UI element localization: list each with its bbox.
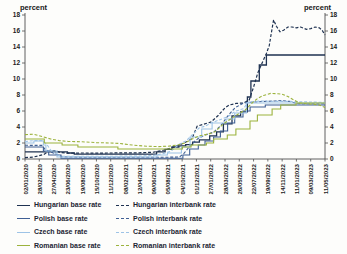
- interest-rates-chart-figure: percent percent 002244668810101212141416…: [0, 0, 347, 254]
- x-tick-label: 12/04/2021: [136, 163, 143, 194]
- x-tick-label: 09/03/2023: [307, 163, 314, 194]
- rates-line-chart: 00224466881010121214141616181802/01/2020…: [0, 0, 347, 200]
- x-tick-label: 27/01/2022: [207, 163, 214, 194]
- y-tick-label-left: 12: [13, 59, 21, 66]
- y-tick-label-right: 14: [330, 43, 338, 50]
- legend-swatch-romanian-base-rate: [17, 245, 30, 246]
- x-tick-label: 28/03/2022: [222, 163, 229, 194]
- legend-item-romanian-base-rate: Romanian base rate: [17, 242, 114, 250]
- y-tick-label-right: 4: [330, 123, 334, 130]
- x-tick-label: 01/12/2021: [193, 163, 200, 194]
- y-tick-label-right: 18: [330, 11, 338, 18]
- y-tick-label-right: 6: [330, 107, 334, 114]
- y-tick-label-left: 0: [16, 155, 20, 162]
- x-tick-label: 11/01/2023: [293, 163, 300, 194]
- x-tick-label: 04/10/2021: [179, 163, 186, 194]
- series-romanian-base-rate: [25, 103, 325, 149]
- chart-legend: Hungarian base rate Hungarian interbank …: [17, 201, 216, 250]
- legend-label-polish-interbank-rate: Polish interbank rate: [133, 215, 202, 223]
- legend-swatch-romanian-interbank-rate: [116, 245, 129, 246]
- legend-swatch-hungarian-base-rate: [17, 205, 30, 206]
- x-tick-label: 02/01/2020: [22, 163, 29, 194]
- x-tick-label: 05/08/2021: [164, 163, 171, 194]
- y-tick-label-right: 8: [330, 91, 334, 98]
- legend-swatch-czech-base-rate: [17, 232, 30, 233]
- y-tick-label-left: 14: [13, 43, 21, 50]
- legend-item-czech-base-rate: Czech base rate: [17, 228, 114, 236]
- series-hungarian-interbank-rate: [25, 20, 325, 158]
- legend-label-czech-base-rate: Czech base rate: [34, 228, 87, 236]
- y-tick-label-right: 16: [330, 27, 338, 34]
- axes: [25, 13, 325, 159]
- legend-item-czech-interbank-rate: Czech interbank rate: [116, 228, 216, 236]
- series-romanian-interbank-rate: [25, 93, 325, 146]
- x-tick-label: 15/10/2020: [93, 163, 100, 194]
- y-tick-label-left: 8: [16, 91, 20, 98]
- x-tick-label: 14/11/2022: [279, 163, 286, 194]
- legend-label-romanian-interbank-rate: Romanian interbank rate: [133, 242, 215, 250]
- legend-swatch-polish-base-rate: [17, 218, 30, 219]
- legend-label-czech-interbank-rate: Czech interbank rate: [133, 228, 202, 236]
- x-tick-label: 09/06/2021: [150, 163, 157, 194]
- left-axis-title: percent: [20, 3, 47, 12]
- x-tick-label: 08/02/2021: [122, 163, 129, 194]
- x-tick-label: 19/08/2020: [79, 163, 86, 194]
- legend-label-polish-base-rate: Polish base rate: [34, 215, 88, 223]
- legend-label-hungarian-base-rate: Hungarian base rate: [34, 201, 101, 209]
- legend-item-polish-interbank-rate: Polish interbank rate: [116, 215, 216, 223]
- legend-swatch-czech-interbank-rate: [116, 232, 129, 233]
- y-tick-label-left: 16: [13, 27, 21, 34]
- y-tick-label-right: 10: [330, 75, 338, 82]
- series-polish-base-rate: [25, 105, 325, 158]
- legend-swatch-polish-interbank-rate: [116, 218, 129, 219]
- legend-swatch-hungarian-interbank-rate: [116, 205, 129, 206]
- y-tick-label-left: 10: [13, 75, 21, 82]
- y-tick-label-right: 12: [330, 59, 338, 66]
- y-tick-label-left: 6: [16, 107, 20, 114]
- x-tick-label: 11/05/2023: [322, 163, 329, 194]
- y-tick-label-right: 2: [330, 139, 334, 146]
- legend-item-hungarian-base-rate: Hungarian base rate: [17, 201, 114, 209]
- x-tick-label: 28/02/2020: [36, 163, 43, 194]
- x-tick-label: 27/04/2020: [50, 163, 57, 194]
- x-tick-label: 26/05/2022: [236, 163, 243, 194]
- legend-item-polish-base-rate: Polish base rate: [17, 215, 114, 223]
- x-tick-label: 19/09/2022: [264, 163, 271, 194]
- y-tick-label-right: 0: [330, 155, 334, 162]
- y-tick-label-left: 2: [16, 139, 20, 146]
- x-tick-label: 22/07/2022: [250, 163, 257, 194]
- x-tick-label: 23/06/2020: [64, 163, 71, 194]
- legend-item-hungarian-interbank-rate: Hungarian interbank rate: [116, 201, 216, 209]
- y-tick-label-left: 18: [13, 11, 21, 18]
- legend-label-romanian-base-rate: Romanian base rate: [34, 242, 101, 250]
- y-tick-label-left: 4: [16, 123, 20, 130]
- x-tick-label: 11/12/2020: [107, 163, 114, 194]
- legend-label-hungarian-interbank-rate: Hungarian interbank rate: [133, 201, 216, 209]
- legend-item-romanian-interbank-rate: Romanian interbank rate: [116, 242, 216, 250]
- right-axis-title: percent: [304, 3, 331, 12]
